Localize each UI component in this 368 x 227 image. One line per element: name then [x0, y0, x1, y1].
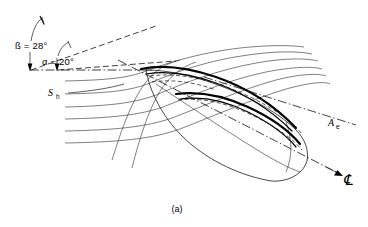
- alpha-leader-arc: [58, 42, 69, 56]
- alpha-angle-label: α = 20°: [42, 56, 74, 67]
- beta-leader-arc: [31, 18, 42, 41]
- centerline-symbol-label: ℄: [343, 172, 353, 188]
- cowl-lower-bold: [176, 93, 300, 144]
- alpha-ray-tick: [68, 41, 71, 48]
- cowl-bold-curves: [141, 67, 300, 147]
- streamline-5: [65, 74, 326, 131]
- figure-container: ß = 28° α = 20° S h A e ℄ (a): [0, 0, 368, 227]
- cowl-lower-companion: [180, 98, 296, 147]
- centerline-arrowhead: [334, 170, 343, 176]
- streamline-1: [65, 46, 304, 81]
- exit-area-label: A: [327, 117, 335, 128]
- exit-area-subscript: e: [336, 123, 340, 130]
- streamline-2: [65, 52, 312, 94]
- body-crease-line: [156, 84, 300, 172]
- stream-surface-label-group: S h: [48, 87, 60, 100]
- body-centerline: [118, 60, 336, 172]
- figure-caption: (a): [172, 204, 183, 214]
- beta-angle-label: ß = 28°: [15, 40, 47, 51]
- dashed-lower-chord: [178, 99, 302, 150]
- stream-surface-leader-line: [68, 84, 124, 93]
- stream-surface-subscript: h: [56, 93, 60, 100]
- alpha-angle-ray: [58, 61, 176, 70]
- inlet-streamline-diagram: ß = 28° α = 20° S h A e ℄ (a): [0, 0, 368, 227]
- stream-surface-curve-inner: [132, 62, 196, 168]
- stream-surface-label: S: [48, 87, 53, 98]
- diagram-labels: ß = 28° α = 20° S h A e ℄ (a): [15, 40, 353, 214]
